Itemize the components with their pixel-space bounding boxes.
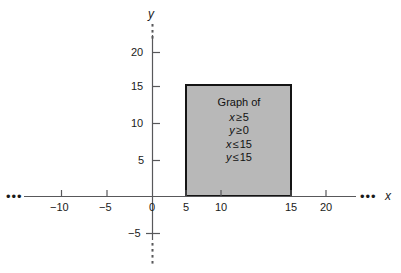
- x-tick-label--10: −10: [50, 202, 69, 213]
- y-axis-top-dots: [152, 24, 154, 39]
- constraint-2-relation: ≥: [235, 124, 243, 136]
- constraint-3: x≤15: [196, 138, 282, 152]
- constraint-4-relation: ≤: [232, 151, 240, 163]
- constraint-4: y≤15: [196, 151, 282, 165]
- constraint-2-variable: y: [229, 124, 235, 136]
- constraint-4-variable: y: [226, 151, 232, 163]
- y-tick-label-10: 10: [131, 118, 143, 129]
- constraint-2-value: 0: [243, 124, 249, 136]
- y-axis-label: y: [148, 8, 154, 20]
- x-tick-label-10: 10: [215, 202, 227, 213]
- constraint-1-variable: x: [229, 111, 235, 123]
- constraint-3-value: 15: [240, 138, 252, 150]
- constraint-1-value: 5: [243, 111, 249, 123]
- y-tick-label-20: 20: [131, 47, 143, 58]
- x-axis-left-ellipsis: •••: [6, 190, 23, 203]
- y-tick-label-5: 5: [138, 155, 144, 166]
- constraint-4-value: 15: [240, 151, 252, 163]
- x-tick-label--5: −5: [99, 202, 112, 213]
- annotation-title: Graph of: [196, 96, 282, 110]
- y-tick-label-15: 15: [131, 81, 143, 92]
- constraint-1: x≥5: [196, 111, 282, 125]
- x-tick-label-5: 5: [183, 202, 189, 213]
- x-axis-right-ellipsis: •••: [360, 190, 377, 203]
- constraint-3-relation: ≤: [232, 138, 240, 150]
- x-tick-label-15: 15: [285, 202, 297, 213]
- constraint-3-variable: x: [226, 138, 232, 150]
- y-axis-bottom-dots: [152, 243, 154, 264]
- x-axis-label: x: [385, 190, 391, 202]
- graph-figure: −10 −5 0 5 10 15 20 20 15 10 5 −5 y x ••…: [0, 0, 401, 273]
- x-tick-label-0: 0: [149, 202, 155, 213]
- constraint-2: y≥0: [196, 124, 282, 138]
- region-annotation: Graph of x≥5 y≥0 x≤15 y≤15: [196, 96, 282, 165]
- y-tick-label--5: −5: [128, 228, 141, 239]
- x-tick-label-20: 20: [320, 202, 332, 213]
- constraint-1-relation: ≥: [235, 111, 243, 123]
